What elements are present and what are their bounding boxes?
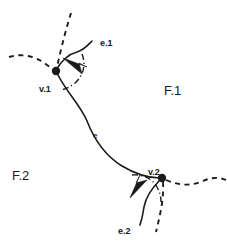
edge-e-group (57, 73, 160, 178)
vertices-group (52, 67, 166, 182)
edge-label-e1: e.1 (100, 38, 113, 48)
dashed-left-of-v1 (9, 55, 55, 71)
labels-group: v.1 v.2 e e.1 e.2 F.1 F.2 (12, 38, 181, 236)
face-label-f1: F.1 (164, 83, 181, 98)
incidence-arrow-v2-group (130, 175, 161, 202)
face-label-f2: F.2 (12, 168, 29, 183)
arrow-e2-to-v2-icon (130, 175, 147, 198)
vertex-dot-v1 (52, 67, 60, 75)
edge-label-e: e (93, 131, 98, 140)
edge-e-curve (57, 73, 160, 178)
dashed-curves-group (9, 13, 226, 232)
dashed-right-of-v2 (166, 178, 226, 185)
vertex-label-v1: v.1 (39, 84, 51, 94)
figure-root: v.1 v.2 e e.1 e.2 F.1 F.2 (0, 0, 227, 244)
incidence-arrow-v1-group (61, 54, 87, 90)
vertex-label-v2: v.2 (148, 167, 160, 177)
diagram-canvas: v.1 v.2 e e.1 e.2 F.1 F.2 (0, 0, 227, 244)
edge-label-e2: e.2 (118, 226, 131, 236)
dashed-below-v2 (156, 182, 163, 232)
